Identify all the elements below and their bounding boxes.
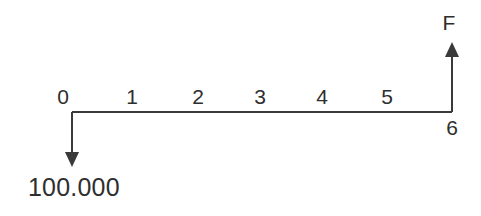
period-label-4: 4 xyxy=(316,86,328,107)
cash-flow-timeline-diagram: 0 1 2 3 4 5 6 F 100.000 xyxy=(0,0,481,216)
outflow-arrow-down xyxy=(65,112,79,167)
period-label-1: 1 xyxy=(126,86,138,107)
initial-outflow-amount: 100.000 xyxy=(28,175,120,200)
outflow-arrowhead xyxy=(65,152,79,167)
inflow-arrow-up xyxy=(445,42,459,112)
inflow-arrowhead xyxy=(445,42,459,57)
period-label-2: 2 xyxy=(192,86,204,107)
period-label-5: 5 xyxy=(381,86,393,107)
future-value-label: F xyxy=(443,12,456,33)
period-label-6: 6 xyxy=(446,117,458,138)
period-label-0: 0 xyxy=(57,86,69,107)
period-label-3: 3 xyxy=(254,86,266,107)
